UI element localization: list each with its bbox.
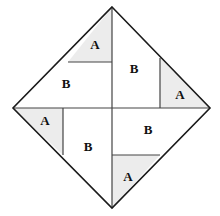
label-top-right-b: B xyxy=(130,61,139,76)
label-top-right-a: A xyxy=(175,87,185,102)
label-bottom-left-b: B xyxy=(84,139,93,154)
label-top-left-b: B xyxy=(62,76,71,91)
label-bottom-right-b: B xyxy=(144,122,153,137)
label-bottom-left-a: A xyxy=(40,113,50,128)
figure-root: ABABABAB xyxy=(0,0,220,216)
label-bottom-right-a: A xyxy=(123,169,133,184)
label-top-left-a: A xyxy=(90,37,100,52)
diamond-dissection-diagram: ABABABAB xyxy=(0,0,220,216)
